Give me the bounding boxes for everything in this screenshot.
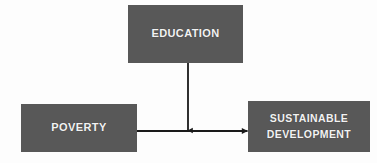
node-poverty[interactable]: POVERTY [21,104,137,152]
node-education[interactable]: EDUCATION [128,5,243,63]
node-education-label: EDUCATION [147,26,223,42]
node-sustainable-development-label: SUSTAINABLE DEVELOPMENT [263,111,355,141]
node-sustainable-development[interactable]: SUSTAINABLE DEVELOPMENT [248,101,370,152]
node-poverty-label: POVERTY [47,120,110,136]
diagram-canvas: EDUCATION POVERTY SUSTAINABLE DEVELOPMEN… [0,0,377,163]
